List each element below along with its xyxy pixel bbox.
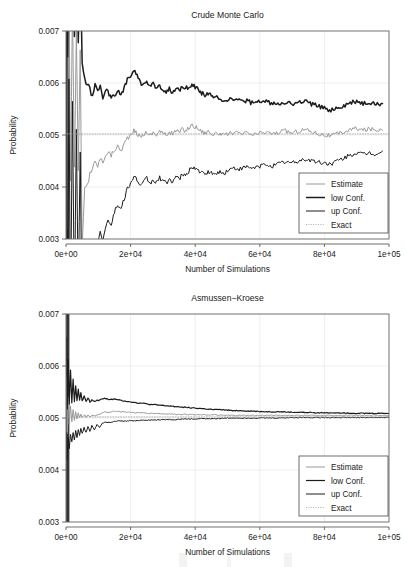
xtick-label-1: 2e+04 bbox=[119, 250, 142, 259]
xtick-label-5: 1e+05 bbox=[378, 533, 401, 542]
legend-label-up-conf: up Conf. bbox=[331, 207, 362, 216]
series-estimate bbox=[67, 378, 389, 434]
ytick-label-4: 0.007 bbox=[39, 27, 60, 36]
legend-label-estimate: Estimate bbox=[331, 180, 363, 189]
ytick-label-0: 0.003 bbox=[39, 235, 60, 244]
xtick-label-5: 1e+05 bbox=[378, 250, 401, 259]
chart-panel-asmussen-kroese: Asmussen−Kroese0.0030.0040.0050.0060.007… bbox=[0, 283, 406, 566]
legend[interactable]: Estimatelow Conf.up Conf.Exact bbox=[299, 173, 388, 233]
ytick-label-2: 0.005 bbox=[39, 131, 60, 140]
chart-title: Asmussen−Kroese bbox=[191, 293, 264, 303]
y-axis-title: Probability bbox=[8, 398, 18, 438]
ytick-label-1: 0.004 bbox=[39, 466, 60, 475]
chart-svg-0: Crude Monte Carlo0.0030.0040.0050.0060.0… bbox=[0, 0, 406, 283]
xtick-label-0: 0e+00 bbox=[55, 533, 78, 542]
legend-label-estimate: Estimate bbox=[331, 463, 363, 472]
legend-label-low-conf: low Conf. bbox=[331, 477, 365, 486]
scan-artifact bbox=[0, 553, 406, 567]
xtick-label-0: 0e+00 bbox=[55, 250, 78, 259]
chart-panel-crude-monte-carlo: Crude Monte Carlo0.0030.0040.0050.0060.0… bbox=[0, 0, 406, 283]
xtick-label-4: 8e+04 bbox=[313, 250, 336, 259]
series-up-conf bbox=[67, 417, 389, 459]
xtick-label-2: 4e+04 bbox=[184, 533, 207, 542]
legend-label-up-conf: up Conf. bbox=[331, 490, 362, 499]
ytick-label-1: 0.004 bbox=[39, 183, 60, 192]
chart-title: Crude Monte Carlo bbox=[191, 10, 264, 20]
chart-root-0: Crude Monte Carlo0.0030.0040.0050.0060.0… bbox=[8, 0, 401, 283]
ytick-label-3: 0.006 bbox=[39, 79, 60, 88]
series-up-conf bbox=[67, 33, 383, 283]
legend[interactable]: Estimatelow Conf.up Conf.Exact bbox=[299, 456, 388, 516]
legend-label-low-conf: low Conf. bbox=[331, 194, 365, 203]
xtick-label-4: 8e+04 bbox=[313, 533, 336, 542]
chart-root-1: Asmussen−Kroese0.0030.0040.0050.0060.007… bbox=[8, 293, 401, 557]
series-low-conf bbox=[67, 338, 389, 414]
ytick-label-4: 0.007 bbox=[39, 310, 60, 319]
ytick-label-3: 0.006 bbox=[39, 362, 60, 371]
legend-label-exact: Exact bbox=[331, 504, 352, 513]
ytick-label-2: 0.005 bbox=[39, 414, 60, 423]
xtick-label-2: 4e+04 bbox=[184, 250, 207, 259]
chart-svg-1: Asmussen−Kroese0.0030.0040.0050.0060.007… bbox=[0, 283, 406, 566]
y-axis-title: Probability bbox=[8, 115, 18, 155]
ytick-label-0: 0.003 bbox=[39, 518, 60, 527]
xtick-label-3: 6e+04 bbox=[248, 533, 271, 542]
x-axis-title: Number of Simulations bbox=[185, 264, 270, 274]
xtick-label-3: 6e+04 bbox=[248, 250, 271, 259]
xtick-label-1: 2e+04 bbox=[119, 533, 142, 542]
figure-page: Crude Monte Carlo0.0030.0040.0050.0060.0… bbox=[0, 0, 406, 567]
legend-label-exact: Exact bbox=[331, 221, 352, 230]
series-group bbox=[66, 0, 389, 283]
